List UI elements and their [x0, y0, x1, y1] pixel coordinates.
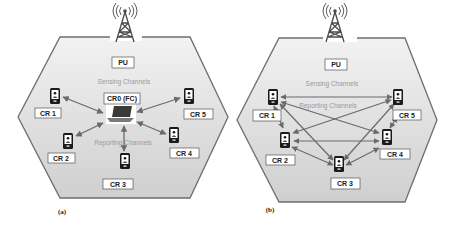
panel-b-caption: (b) — [266, 206, 275, 214]
cr4-label: CR 4 — [176, 150, 192, 157]
cr3-device-icon — [334, 156, 344, 172]
cr2-device-icon — [280, 132, 290, 148]
cr4-label: CR 4 — [387, 151, 403, 158]
sensing-channels-label: Sensing Channels — [306, 80, 360, 88]
sensing-channels-label: Sensing Channels — [98, 78, 152, 86]
pu-label: PU — [331, 61, 341, 68]
cr5-device-icon — [184, 88, 194, 104]
cr5-label: CR 5 — [399, 112, 415, 119]
cr2-label: CR 2 — [53, 155, 69, 162]
cr5-device-icon — [393, 89, 403, 105]
cr1-label: CR 1 — [259, 112, 275, 119]
cr3-device-icon — [120, 153, 130, 169]
cr3-label: CR 3 — [110, 181, 126, 188]
panel-a-caption: (a) — [58, 208, 67, 216]
reporting-channels-label: Reporting Channels — [299, 102, 357, 110]
cr1-label: CR 1 — [40, 110, 56, 117]
fc-label: CR0 (FC) — [107, 95, 137, 103]
cr2-label: CR 2 — [272, 157, 288, 164]
cr4-device-icon — [169, 127, 179, 143]
cr5-label: CR 5 — [190, 111, 206, 118]
cr3-label: CR 3 — [337, 180, 353, 187]
cr2-device-icon — [63, 133, 73, 149]
panel-b: PU Sensing Channels Reporting Channels — [237, 3, 437, 214]
fc-laptop-icon — [106, 104, 136, 124]
panel-a: PU Sensing Channels Reporting Channels C… — [18, 3, 228, 216]
cr1-device-icon — [268, 89, 278, 105]
cr4-device-icon — [382, 129, 392, 145]
pu-label: PU — [118, 59, 128, 66]
cr1-device-icon — [50, 88, 60, 104]
